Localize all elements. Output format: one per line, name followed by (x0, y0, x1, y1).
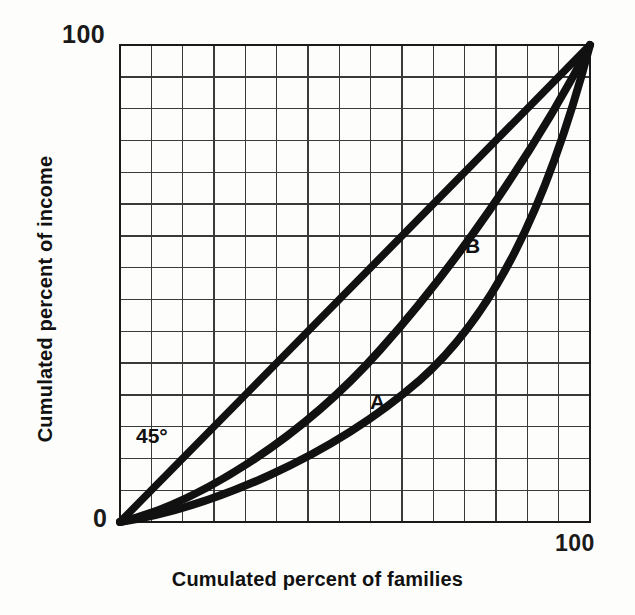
y-axis-title-container: Cumulated percent of income (34, 99, 64, 499)
annotation-curve-b-label: B (465, 234, 480, 258)
chart-page: 100 0 100 (0, 0, 635, 615)
y-axis-title: Cumulated percent of income (34, 156, 56, 443)
lorenz-curve-plot (0, 0, 635, 615)
annotation-curve-a-label: A (370, 390, 385, 414)
annotation-45-degree-label: 45° (136, 424, 168, 448)
x-axis-title: Cumulated percent of families (0, 568, 635, 591)
